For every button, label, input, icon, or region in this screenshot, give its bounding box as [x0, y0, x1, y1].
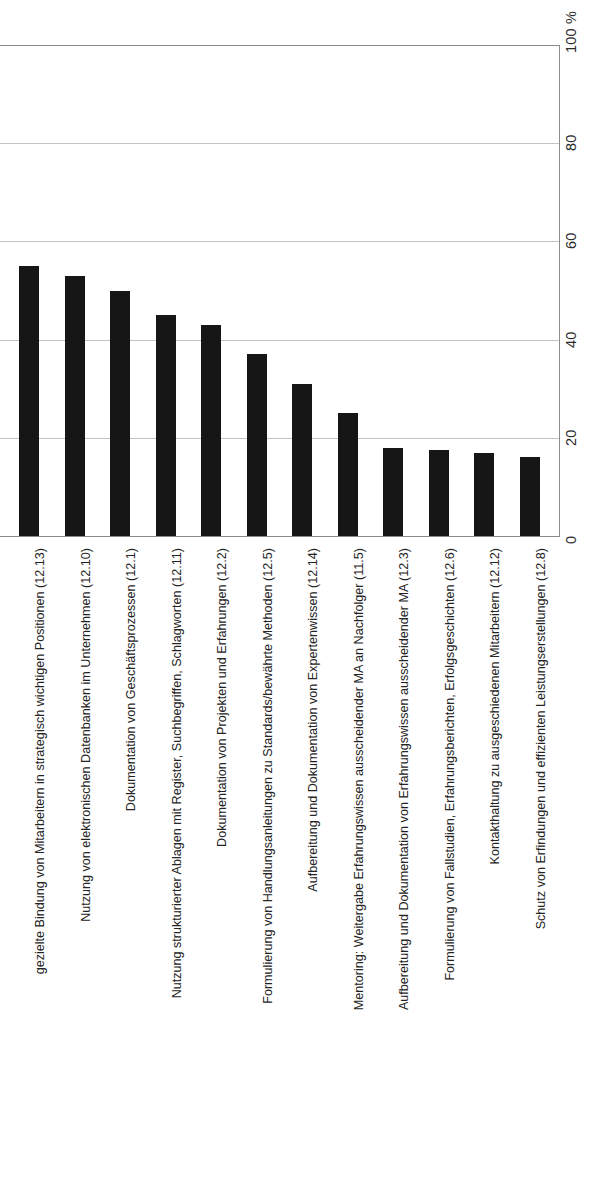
category-label: Mentoring: Weitergabe Erfahrungswissen a… — [353, 548, 366, 1178]
category-label: Formulierung von Fallstudien, Erfahrungs… — [444, 548, 457, 1178]
bar — [201, 325, 221, 536]
category-label: Nutzung strukturierter Ablagen mit Regis… — [171, 548, 184, 1178]
category-label: gezielte Bindung von Mitarbeitern in str… — [34, 548, 47, 1178]
category-label: Schutz von Erfindungen und effizienten L… — [535, 548, 548, 1178]
value-axis-line — [559, 45, 560, 537]
bar-chart-figure: 020406080100 % gezielte Bindung von Mita… — [0, 0, 595, 1185]
bar — [110, 291, 130, 537]
category-label: Aufbereitung und Dokumentation von Erfah… — [398, 548, 411, 1178]
category-label: Kontakthaltung zu ausgeschiedenen Mitarb… — [489, 548, 502, 1178]
value-axis-tick-0: 0 — [563, 474, 579, 544]
value-axis-tick-20: 20 — [563, 376, 579, 446]
category-axis-baseline — [0, 536, 560, 537]
value-axis-tick-100: 100 % — [563, 0, 579, 53]
bar — [383, 448, 403, 536]
bars-group — [0, 45, 560, 536]
bar — [338, 413, 358, 536]
category-label: Formulierung von Handlungsanleitungen zu… — [262, 548, 275, 1178]
bar — [65, 276, 85, 536]
category-label: Aufbereitung und Dokumentation von Exper… — [307, 548, 320, 1178]
plot-area — [0, 45, 560, 537]
category-label: Dokumentation von Geschäftsprozessen (12… — [125, 548, 138, 1178]
value-axis-tick-40: 40 — [563, 278, 579, 348]
category-axis-labels: gezielte Bindung von Mitarbeitern in str… — [0, 548, 595, 1185]
value-axis-tick-80: 80 — [563, 81, 579, 151]
bar — [429, 450, 449, 536]
category-label: Nutzung von elektronischen Datenbanken i… — [80, 548, 93, 1178]
bar — [292, 384, 312, 536]
value-axis-tick-60: 60 — [563, 179, 579, 249]
category-label: Dokumentation von Projekten und Erfahrun… — [216, 548, 229, 1178]
bar — [474, 453, 494, 536]
bar — [247, 354, 267, 536]
bar — [156, 315, 176, 536]
bar — [19, 266, 39, 536]
bar — [520, 457, 540, 536]
